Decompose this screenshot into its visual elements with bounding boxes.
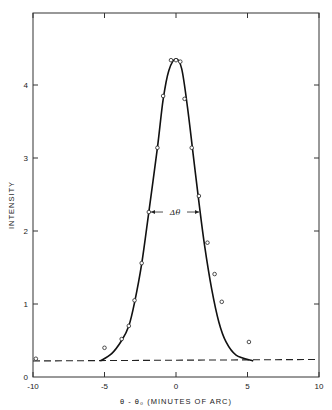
- x-tick-label: -5: [101, 382, 109, 391]
- data-point: [174, 58, 178, 62]
- data-point: [213, 272, 217, 276]
- axis-tick-labels: -10-5051001234: [24, 81, 324, 391]
- data-point: [34, 357, 38, 361]
- x-tick-label: -10: [27, 382, 39, 391]
- data-point: [161, 94, 165, 98]
- x-tick-label: 10: [315, 382, 324, 391]
- data-point: [220, 300, 224, 304]
- data-point: [206, 241, 210, 245]
- data-points: [34, 58, 251, 360]
- y-tick-label: 2: [24, 227, 29, 236]
- plot-frame: [33, 13, 319, 377]
- data-point: [147, 210, 151, 214]
- delta-theta-annotation: Δθ: [151, 208, 199, 217]
- data-point: [197, 194, 201, 198]
- data-point: [156, 146, 160, 150]
- data-point: [178, 60, 182, 64]
- chart: -10-5051001234 θ - θ₀ (MINUTES OF ARC) I…: [0, 0, 332, 410]
- y-tick-label: 3: [24, 154, 29, 163]
- background-dashed-line: [33, 359, 319, 360]
- y-tick-label: 4: [24, 81, 29, 90]
- data-point: [120, 337, 124, 341]
- data-point: [133, 299, 137, 303]
- data-point: [169, 58, 173, 62]
- x-tick-label: 5: [245, 382, 250, 391]
- x-axis-label: θ - θ₀ (MINUTES OF ARC): [120, 397, 232, 406]
- x-tick-label: 0: [174, 382, 179, 391]
- y-tick-label: 1: [24, 300, 29, 309]
- y-tick-label: 0: [24, 373, 29, 382]
- data-point: [247, 340, 251, 344]
- delta-theta-label: Δθ: [169, 208, 181, 217]
- data-point: [190, 146, 194, 150]
- data-point: [103, 346, 107, 350]
- data-point: [127, 324, 131, 328]
- axis-ticks: [33, 13, 319, 377]
- data-point: [140, 261, 144, 265]
- y-axis-label: INTENSITY: [7, 181, 16, 229]
- data-point: [183, 97, 187, 101]
